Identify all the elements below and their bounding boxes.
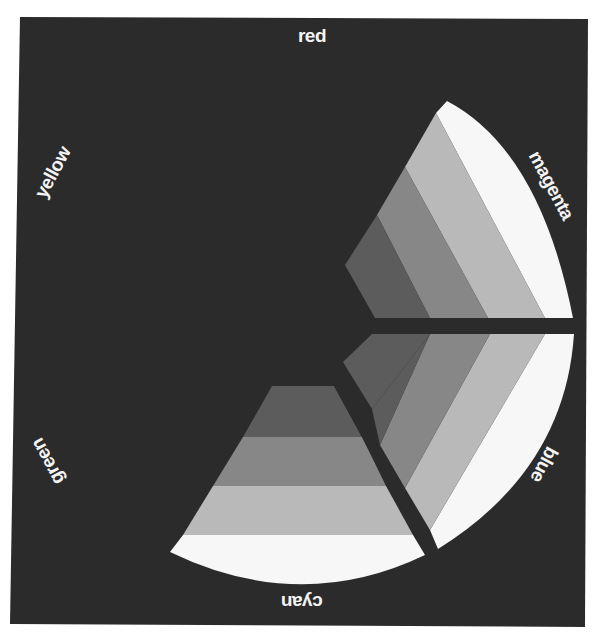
color-wheel-chart: red magenta blue cyan green yellow <box>0 0 609 644</box>
cyan-band-3 <box>183 486 413 535</box>
label-red: red <box>298 25 326 46</box>
label-cyan: cyan <box>281 592 322 613</box>
cyan-band-2 <box>213 437 386 486</box>
